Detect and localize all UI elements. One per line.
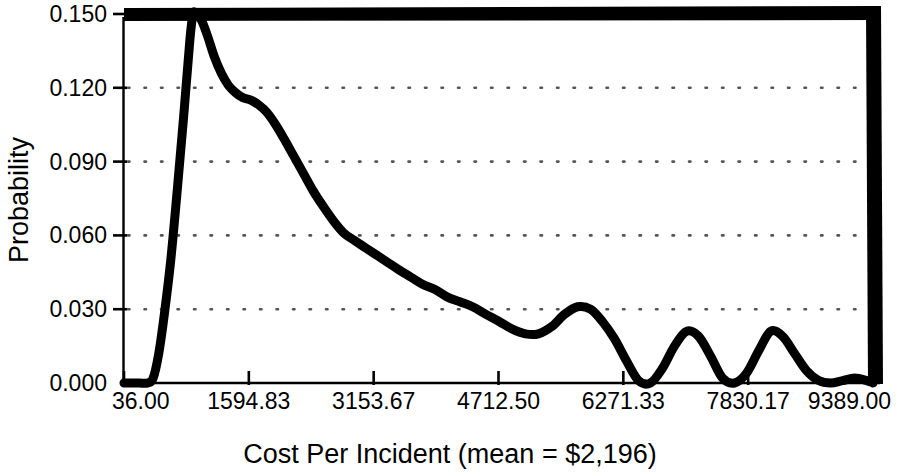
x-tick-label: 36.00 — [112, 388, 170, 414]
x-tick-label: 9389.00 — [808, 388, 891, 414]
x-tick-label: 1594.83 — [207, 388, 290, 414]
y-tick-label: 0.120 — [49, 75, 107, 101]
y-tick-label: 0.060 — [49, 222, 107, 248]
plot-frame-top — [124, 6, 880, 21]
y-tick-label: 0.000 — [49, 370, 107, 396]
x-tick-label: 3153.67 — [332, 388, 415, 414]
probability-density-chart: 0.0000.0300.0600.0900.1200.150 36.001594… — [0, 0, 898, 472]
y-axis-title: Probability — [4, 136, 34, 263]
x-tick-label: 6271.33 — [582, 388, 665, 414]
y-tick-label: 0.030 — [49, 296, 107, 322]
plot-frame-right — [866, 6, 883, 384]
x-axis-tick-labels: 36.001594.833153.674712.506271.337830.17… — [112, 388, 891, 414]
y-tick-label: 0.150 — [49, 1, 107, 27]
x-tick-label: 4712.50 — [457, 388, 540, 414]
chart-figure: 0.0000.0300.0600.0900.1200.150 36.001594… — [0, 0, 898, 472]
x-tick-label: 7830.17 — [707, 388, 790, 414]
x-axis-title: Cost Per Incident (mean = $2,196) — [243, 439, 656, 469]
y-tick-label: 0.090 — [49, 149, 107, 175]
